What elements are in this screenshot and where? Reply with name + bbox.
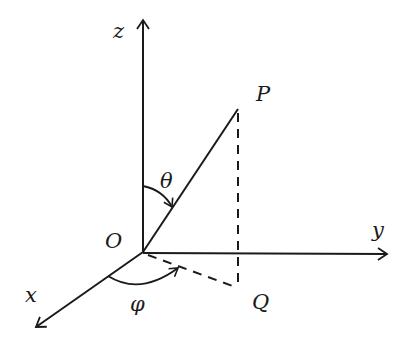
point-p-label: P xyxy=(255,82,271,106)
theta-label: θ xyxy=(160,169,173,193)
projection-oq-dashed-line xyxy=(148,255,238,288)
y-axis xyxy=(143,253,387,254)
phi-angle-arc-arrow xyxy=(108,268,178,284)
spherical-coordinate-diagram: z y x O P Q θ φ xyxy=(0,0,407,347)
z-axis-label: z xyxy=(112,19,125,43)
point-q-label: Q xyxy=(252,290,269,314)
origin-label: O xyxy=(105,229,122,253)
x-axis xyxy=(36,252,143,327)
y-axis-label: y xyxy=(371,218,385,242)
x-axis-label: x xyxy=(25,283,37,307)
phi-label: φ xyxy=(130,292,145,316)
radius-op-line xyxy=(143,109,238,252)
